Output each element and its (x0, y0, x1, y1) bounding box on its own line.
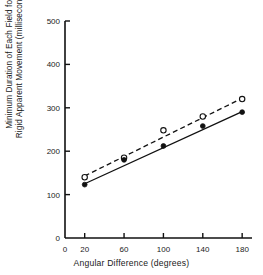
data-point-open-circle-series (200, 114, 205, 119)
data-point-open-circle-series (82, 175, 87, 180)
y-axis-tick-label: 500 (22, 17, 60, 26)
chart-figure: Minimum Duration of Each Field for Rigid… (0, 0, 263, 275)
x-axis-tick-label: 60 (120, 245, 129, 254)
data-point-filled-circle-series (82, 182, 87, 187)
data-point-filled-circle-series (200, 124, 205, 129)
trend-line-open-circle-series (85, 98, 242, 176)
x-axis-label: Angular Difference (degrees) (0, 258, 263, 268)
data-point-open-circle-series (239, 96, 244, 101)
y-axis-tick-label: 0 (22, 234, 60, 243)
x-axis-tick-label: 180 (235, 245, 248, 254)
x-axis-tick-label: 20 (80, 245, 89, 254)
y-axis-tick-label: 200 (22, 147, 60, 156)
y-axis-tick-label: 100 (22, 190, 60, 199)
data-point-filled-circle-series (240, 110, 245, 115)
x-axis-tick-label: 0 (63, 245, 67, 254)
y-axis-label-line-1: Minimum Duration of Each Field for (5, 0, 15, 129)
x-axis-tick-label: 100 (157, 245, 170, 254)
data-point-open-circle-series (161, 128, 166, 133)
y-axis-tick-label: 300 (22, 103, 60, 112)
y-axis-tick-label: 400 (22, 60, 60, 69)
data-point-filled-circle-series (161, 144, 166, 149)
data-point-filled-circle-series (122, 157, 127, 162)
x-axis-tick-label: 140 (196, 245, 209, 254)
